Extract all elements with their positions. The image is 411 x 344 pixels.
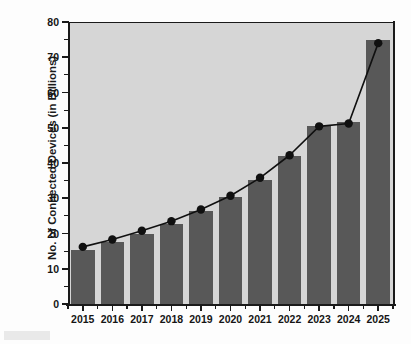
bar [101,242,125,304]
bar [189,211,213,304]
y-axis-tick [62,21,69,23]
x-axis-minor-tick [333,305,334,309]
y-axis-minor-tick [64,251,69,252]
y-axis-minor-tick [64,215,69,216]
x-axis-tick [348,305,350,311]
x-axis-tick [82,305,84,311]
bar [307,126,331,304]
x-axis-tick [289,305,291,311]
chart-figure: No. of Connected Devices (in Billions) 0… [0,0,411,344]
bar [248,180,272,304]
x-axis-minor-tick [186,305,187,309]
y-axis-tick-label: 10 [0,264,59,275]
x-axis-tick-label: 2025 [355,314,401,325]
x-axis-minor-tick [126,305,127,309]
y-axis-tick-label: 60 [0,88,59,99]
x-axis-tick [112,305,114,311]
x-axis-minor-tick [245,305,246,309]
x-axis-tick [318,305,320,311]
x-axis-minor-tick [67,305,68,309]
y-axis-minor-tick [64,39,69,40]
x-axis-minor-tick [156,305,157,309]
x-axis-tick [141,305,143,311]
y-axis-tick [62,233,69,235]
y-axis-tick-label: 0 [0,299,59,310]
bar [366,40,390,304]
y-axis-tick-label: 20 [0,229,59,240]
y-axis-minor-tick [64,74,69,75]
y-axis-tick [62,92,69,94]
bar [130,234,154,305]
x-axis-tick [200,305,202,311]
y-axis-minor-tick [64,110,69,111]
y-axis-tick-label: 40 [0,158,59,169]
y-axis-tick [62,162,69,164]
y-axis-tick-label: 70 [0,52,59,63]
scan-artifact [4,331,50,340]
bar [337,122,361,304]
y-axis-minor-tick [64,286,69,287]
x-axis-tick [171,305,173,311]
bar [71,250,95,304]
x-axis-minor-tick [274,305,275,309]
y-axis-tick-label: 30 [0,193,59,204]
x-axis-tick [230,305,232,311]
y-axis-tick-label: 50 [0,123,59,134]
x-axis-minor-tick [392,305,393,309]
y-axis-tick [62,268,69,270]
y-axis-tick [62,127,69,129]
plot-right-border [393,21,395,305]
bar [219,197,243,304]
bar [160,224,184,304]
x-axis-tick [259,305,261,311]
y-axis-minor-tick [64,145,69,146]
y-axis-minor-tick [64,180,69,181]
bar [278,156,302,304]
y-axis-tick [62,56,69,58]
x-axis-minor-tick [363,305,364,309]
x-axis-minor-tick [304,305,305,309]
x-axis-minor-tick [215,305,216,309]
y-axis-tick [62,197,69,199]
x-axis-minor-tick [97,305,98,309]
y-axis-tick-label: 80 [0,17,59,28]
x-axis-tick [377,305,379,311]
